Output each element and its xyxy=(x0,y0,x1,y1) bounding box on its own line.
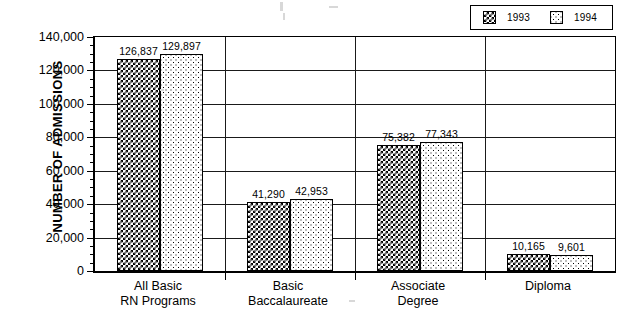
y-axis-tick-major xyxy=(87,271,95,272)
legend-entry-1994: 1994 xyxy=(550,11,597,24)
y-axis-tick-minor xyxy=(90,146,95,147)
bar-1993-4 xyxy=(507,254,550,271)
x-axis-category-label-line: Basic xyxy=(248,279,328,294)
x-axis-category-label-line: All Basic xyxy=(120,279,196,294)
bar-value-label: 10,165 xyxy=(512,240,545,252)
bar-value-label: 129,897 xyxy=(162,40,201,52)
y-axis-tick-minor xyxy=(90,79,95,80)
bar-1993-3 xyxy=(377,145,420,271)
legend-label-1993: 1993 xyxy=(507,12,530,23)
bar-value-label: 77,343 xyxy=(425,128,458,140)
chart-figure: 1993 1994 NUMBER OF ADMISSIONS 020,00040… xyxy=(0,0,625,329)
legend-swatch-1993-icon xyxy=(483,11,496,24)
legend-entry-1993: 1993 xyxy=(483,11,530,24)
x-axis-category-label: All BasicRN Programs xyxy=(120,279,196,309)
x-axis-separator-tick xyxy=(355,271,356,280)
x-axis-category-label-line: Baccalaureate xyxy=(248,294,328,309)
scan-artifact xyxy=(280,2,283,11)
x-axis-separator-tick xyxy=(225,271,226,280)
y-axis-tick-minor xyxy=(90,179,95,180)
y-axis-tick-label: 140,000 xyxy=(39,30,84,44)
y-axis-tick-label: 0 xyxy=(77,264,84,278)
x-axis-category-label-line: Associate xyxy=(391,279,445,294)
y-axis-tick-major xyxy=(87,238,95,239)
legend-swatch-1994-icon xyxy=(550,11,563,24)
scan-artifact xyxy=(329,6,338,8)
bar-value-label: 75,382 xyxy=(382,131,415,143)
y-axis-tick-major xyxy=(87,204,95,205)
y-axis-tick-minor xyxy=(90,187,95,188)
gridline-category-separator xyxy=(355,37,356,271)
bar-value-label: 42,953 xyxy=(295,185,328,197)
y-axis-tick-minor xyxy=(90,221,95,222)
bar-1994-2 xyxy=(290,199,333,271)
y-axis-tick-minor xyxy=(90,154,95,155)
y-axis-tick-minor xyxy=(90,112,95,113)
x-axis-category-label-line: Degree xyxy=(391,294,445,309)
plot-area: 020,00040,00060,00080,000100,000120,0001… xyxy=(93,36,616,273)
y-axis-tick-major xyxy=(87,37,95,38)
y-axis-tick-major xyxy=(87,104,95,105)
bar-1994-4 xyxy=(550,255,593,271)
y-axis-tick-minor xyxy=(90,54,95,55)
gridline-category-separator xyxy=(485,37,486,271)
y-axis-tick-label: 100,000 xyxy=(39,97,84,111)
y-axis-tick-minor xyxy=(90,254,95,255)
y-axis-tick-label: 20,000 xyxy=(46,231,84,245)
scan-artifact xyxy=(349,300,355,302)
scan-artifact xyxy=(283,13,285,20)
y-axis-tick-minor xyxy=(90,121,95,122)
x-axis-category-label: AssociateDegree xyxy=(391,279,445,309)
bar-1994-3 xyxy=(420,142,463,271)
x-axis-separator-tick xyxy=(485,271,486,280)
scan-artifact xyxy=(160,89,164,91)
y-axis-tick-label: 80,000 xyxy=(46,130,84,144)
gridline-category-separator xyxy=(225,37,226,271)
y-axis-tick-major xyxy=(87,137,95,138)
y-axis-tick-minor xyxy=(90,213,95,214)
y-axis-tick-minor xyxy=(90,129,95,130)
y-axis-tick-minor xyxy=(90,96,95,97)
bar-value-label: 9,601 xyxy=(558,241,585,253)
x-axis-category-label-line: RN Programs xyxy=(120,294,196,309)
y-axis-tick-minor xyxy=(90,263,95,264)
y-axis-tick-minor xyxy=(90,162,95,163)
y-axis-tick-minor xyxy=(90,87,95,88)
chart-legend: 1993 1994 xyxy=(470,5,613,30)
bar-value-label: 126,837 xyxy=(119,45,158,57)
y-axis-tick-label: 60,000 xyxy=(46,164,84,178)
bar-1993-1 xyxy=(117,59,160,271)
bar-1993-2 xyxy=(247,202,290,271)
y-axis-tick-minor xyxy=(90,229,95,230)
x-axis-category-label-line: Diploma xyxy=(525,279,571,294)
x-axis-category-label: BasicBaccalaureate xyxy=(248,279,328,309)
y-axis-tick-label: 40,000 xyxy=(46,197,84,211)
y-axis-tick-minor xyxy=(90,196,95,197)
x-axis-category-label: Diploma xyxy=(525,279,571,294)
y-axis-tick-minor xyxy=(90,246,95,247)
y-axis-tick-major xyxy=(87,70,95,71)
y-axis-tick-minor xyxy=(90,62,95,63)
y-axis-tick-minor xyxy=(90,45,95,46)
legend-label-1994: 1994 xyxy=(574,12,597,23)
bar-value-label: 41,290 xyxy=(252,188,285,200)
bar-1994-1 xyxy=(160,54,203,271)
y-axis-tick-major xyxy=(87,171,95,172)
y-axis-tick-label: 120,000 xyxy=(39,63,84,77)
